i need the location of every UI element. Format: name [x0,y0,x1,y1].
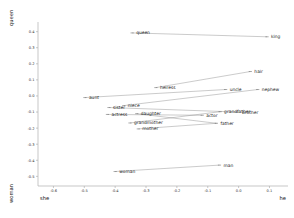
axes-group: 0.40.30.20.10.0-0.1-0.2-0.3-0.4-0.5-0.6-… [8,10,288,203]
y-axis-bottom-name: woman [8,184,14,203]
data-point-label: nephew [262,87,280,92]
x-axis-right-name: he [280,195,286,201]
data-point-label: uncle [230,87,242,92]
data-point-label: father [220,121,233,126]
x-tick-label: 0.0 [236,189,242,193]
data-point-label: actor [206,113,218,118]
y-axis-top-name: queen [8,10,15,26]
x-tick-label: -0.5 [81,189,88,193]
plot-canvas: queenkinghairheiressunclenephewauntsiste… [0,0,294,218]
x-tick-label: -0.3 [143,189,150,193]
word-embedding-scatter-figure: queenkinghairheiressunclenephewauntsiste… [0,0,294,218]
y-tick-label: -0.5 [27,175,34,179]
data-point-label: queen [136,30,150,35]
data-point-label: grandmother [134,120,163,125]
y-tick-label: 0.3 [29,46,35,50]
pair-lines-group [85,33,267,172]
y-tick-label: -0.4 [27,159,35,163]
data-point-label: daughter [141,111,161,116]
data-point-label: man [223,163,233,168]
points-group: queenkinghairheiressunclenephewauntsiste… [83,30,280,174]
y-tick-label: 0.2 [29,62,35,66]
x-tick-label: -0.2 [173,189,180,193]
data-point-label: actress [111,112,128,117]
data-point-label: hair [254,69,263,74]
y-tick-label: 0.4 [29,30,35,34]
y-tick-label: -0.2 [27,127,34,131]
y-tick-label: 0.0 [29,94,35,98]
data-point-label: mother [142,126,158,131]
data-point-label: brother [242,110,258,115]
x-tick-label: 0.1 [267,189,273,193]
pair-line [85,90,226,98]
x-tick-label: -0.6 [50,189,58,193]
data-point-label: woman [119,169,135,174]
pair-line [109,108,238,113]
y-tick-label: -0.1 [27,110,34,114]
x-tick-label: -0.4 [112,189,120,193]
x-tick-label: -0.1 [204,189,211,193]
data-point-label: niece [128,103,140,108]
y-tick-label: -0.3 [27,143,34,147]
data-point-label: aunt [89,95,99,100]
pair-line [132,33,267,37]
data-point-label: king [271,34,281,39]
data-point-label: heiress [160,85,176,90]
x-axis-left-name: she [40,195,49,201]
y-tick-label: 0.1 [29,78,35,82]
